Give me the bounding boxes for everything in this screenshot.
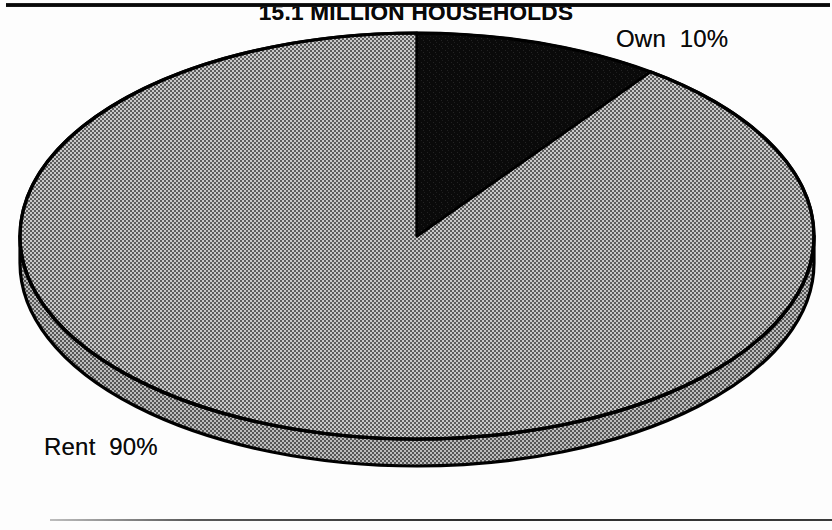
slice-label-rent: Rent 90% xyxy=(44,433,158,461)
chart-page: Own 10% Rent 90% 15.1 MILLION HOUSEHOLDS xyxy=(0,0,832,530)
bottom-divider-rule xyxy=(50,519,832,521)
slice-label-own: Own 10% xyxy=(616,25,728,53)
